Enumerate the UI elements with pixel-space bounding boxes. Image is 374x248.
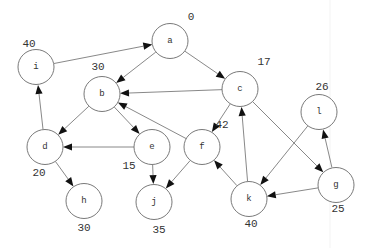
distance-label-e: 15 xyxy=(122,160,135,172)
node-label: a xyxy=(167,36,173,46)
node-j: j xyxy=(136,185,172,220)
distance-label-j: 35 xyxy=(152,224,165,236)
node-label: j xyxy=(151,197,156,207)
distance-label-d: 20 xyxy=(32,167,45,179)
distance-label-f: 42 xyxy=(215,119,228,131)
node-c: c xyxy=(222,72,258,107)
node-label: e xyxy=(149,142,154,152)
node-h: h xyxy=(66,184,102,219)
node-label: f xyxy=(199,142,204,152)
node-k: k xyxy=(231,182,267,217)
node-label: g xyxy=(333,180,338,190)
node-e: e xyxy=(134,130,170,165)
node-b: b xyxy=(84,77,120,112)
node-label: c xyxy=(237,84,242,94)
distance-label-a: 0 xyxy=(188,11,195,23)
node-l: l xyxy=(301,95,337,130)
distance-label-h: 30 xyxy=(77,222,90,234)
node-label: b xyxy=(99,89,104,99)
distance-label-i: 40 xyxy=(22,38,35,50)
distance-label-k: 40 xyxy=(244,218,257,230)
distance-label-g: 25 xyxy=(331,203,344,215)
node-label: l xyxy=(316,107,321,117)
node-d: d xyxy=(27,130,63,165)
graph-diagram: aibcldefghjk 04030172620154225303540 xyxy=(0,0,374,248)
node-g: g xyxy=(318,168,354,203)
node-a: a xyxy=(152,24,188,59)
distance-label-b: 30 xyxy=(91,61,104,73)
node-label: d xyxy=(42,142,47,152)
node-label: k xyxy=(246,194,251,204)
node-label: h xyxy=(81,196,86,206)
node-f: f xyxy=(184,130,220,165)
distance-label-c: 17 xyxy=(257,56,270,68)
node-i: i xyxy=(18,50,54,85)
node-label: i xyxy=(33,62,38,72)
distance-label-l: 26 xyxy=(315,81,328,93)
